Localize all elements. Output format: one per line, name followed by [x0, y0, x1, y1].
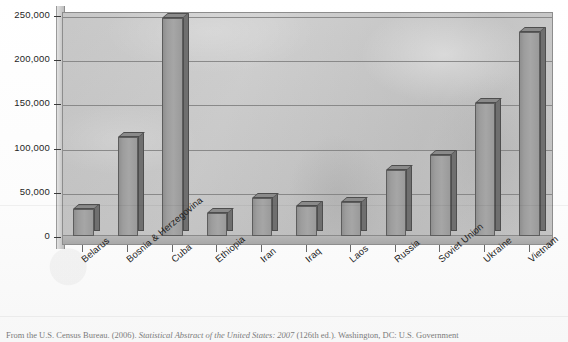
x-tick-mark [529, 245, 530, 252]
y-tick-label: 250,000 [0, 9, 50, 20]
bar-front-face [207, 213, 228, 236]
bar-front-face [162, 18, 183, 236]
bar [341, 197, 362, 236]
bar [430, 150, 451, 236]
scan-artifact [0, 316, 568, 317]
bar-side-face [138, 132, 144, 231]
figure-caption: From the U.S. Census Bureau. (2006). Sta… [6, 330, 562, 341]
y-tick-mark [54, 149, 61, 150]
bar-side-face [183, 13, 189, 231]
y-tick-mark [54, 60, 61, 61]
x-tick-mark [261, 245, 262, 252]
y-tick-mark [54, 16, 61, 17]
y-tick-mark [54, 193, 61, 194]
bar [296, 201, 317, 236]
x-tick-mark [395, 245, 396, 252]
bar-front-face [430, 155, 451, 236]
bar-chart-figure: 250,000200,000150,000100,00050,0000 Bela… [0, 0, 568, 342]
bar [73, 204, 94, 236]
bar-side-face [451, 150, 457, 231]
bar-front-face [118, 137, 139, 236]
caption-suffix: (126th ed.). Washington, DC: U.S. Govern… [294, 330, 458, 340]
caption-source-title: Statistical Abstract of the United State… [139, 330, 295, 340]
bar-front-face [386, 170, 407, 236]
bar-series [63, 13, 552, 236]
y-tick-label: 0 [0, 230, 50, 241]
bar-side-face [540, 27, 546, 231]
bar-front-face [296, 206, 317, 236]
bar [207, 208, 228, 236]
plot-area [62, 12, 553, 245]
bar [162, 13, 183, 236]
plot-floor [63, 235, 552, 244]
bar-front-face [341, 202, 362, 236]
scan-artifact [0, 205, 568, 206]
y-tick-mark [54, 237, 61, 238]
bar-front-face [73, 209, 94, 236]
bar-side-face [406, 165, 412, 231]
bar-front-face [252, 198, 273, 236]
bar-side-face [361, 197, 367, 231]
x-tick-mark [127, 245, 128, 252]
bar-front-face [475, 103, 496, 236]
y-tick-mark [54, 104, 61, 105]
x-tick-mark [306, 245, 307, 252]
y-tick-label: 200,000 [0, 53, 50, 64]
bar [118, 132, 139, 236]
bar-side-face [495, 98, 501, 231]
bar [252, 193, 273, 236]
x-tick-mark [172, 245, 173, 252]
y-tick-label: 50,000 [0, 186, 50, 197]
bar-side-face [272, 193, 278, 231]
y-tick-label: 150,000 [0, 97, 50, 108]
bar [386, 165, 407, 236]
caption-prefix: From the U.S. Census Bureau. (2006). [6, 330, 139, 340]
y-tick-label: 100,000 [0, 142, 50, 153]
bar [475, 98, 496, 236]
